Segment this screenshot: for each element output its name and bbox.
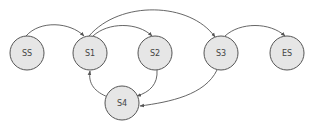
edge-s4-to-s1: [90, 71, 108, 97]
edge-s1-to-s3: [89, 10, 215, 37]
node-s3: S3: [204, 36, 238, 70]
node-s4: S4: [105, 86, 139, 120]
node-label-s1: S1: [85, 49, 95, 58]
node-label-ss: SS: [22, 49, 32, 58]
node-label-s4: S4: [117, 99, 127, 108]
node-label-s3: S3: [216, 49, 226, 58]
edge-s3-to-es: [225, 26, 285, 37]
node-label-s2: S2: [150, 49, 160, 58]
node-s2: S2: [138, 36, 172, 70]
node-ss: SS: [10, 36, 44, 70]
node-label-es: ES: [282, 49, 292, 58]
edge-s1-to-s2: [93, 26, 152, 37]
edge-ss-to-s1: [26, 25, 84, 36]
state-diagram: SS S1 S2 S3 ES S4: [0, 0, 311, 128]
edge-s2-to-s4: [137, 70, 157, 96]
node-es: ES: [270, 36, 304, 70]
node-s1: S1: [73, 36, 107, 70]
